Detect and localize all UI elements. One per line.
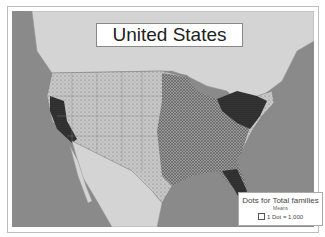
legend-item-label: 1 Dot = 1,000 xyxy=(267,214,303,220)
legend-subtitle: Means xyxy=(239,205,322,211)
map-legend: Dots for Total families Means 1 Dot = 1,… xyxy=(238,192,323,226)
dot-symbol-icon xyxy=(258,213,265,220)
legend-title: Dots for Total families xyxy=(239,196,322,205)
legend-item: 1 Dot = 1,000 xyxy=(239,213,322,220)
map-title: United States xyxy=(96,23,243,47)
